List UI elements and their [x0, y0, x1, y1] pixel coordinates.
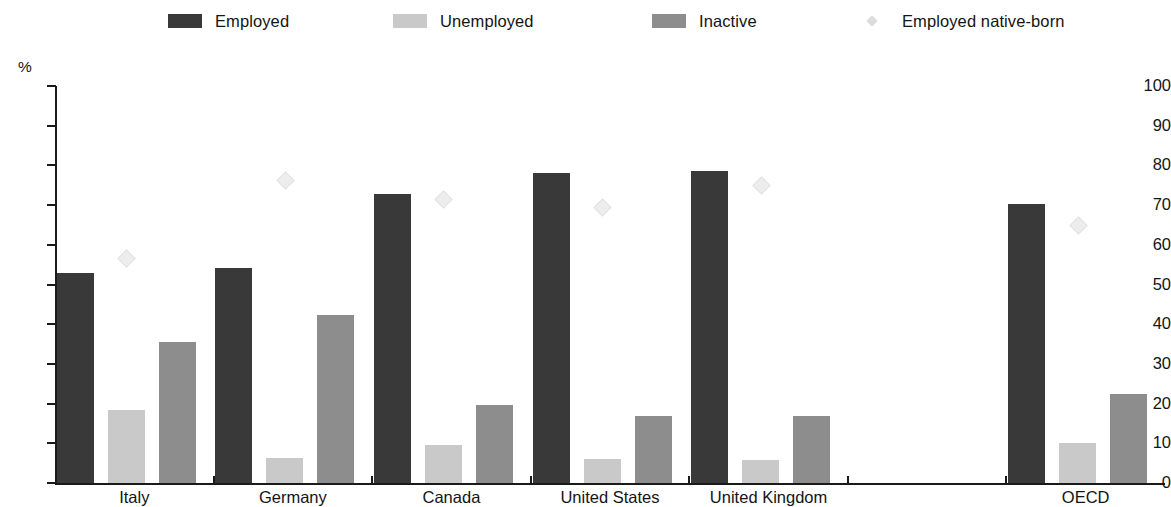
y-axis-tick	[47, 442, 56, 444]
legend-swatch-inactive	[652, 14, 686, 28]
legend-label-employed: Employed	[215, 12, 289, 31]
legend-label-employed-native-born: Employed native-born	[902, 12, 1065, 31]
legend-item-unemployed: Unemployed	[393, 10, 534, 32]
bar-unemployed	[1059, 443, 1096, 483]
bar-employed	[1008, 204, 1045, 483]
chart-legend: Employed Unemployed Inactive Employed na…	[0, 0, 1171, 46]
legend-label-inactive: Inactive	[699, 12, 757, 31]
y-axis-tick-label: 80	[1129, 156, 1171, 173]
bar-employed	[533, 173, 570, 483]
x-axis-category-label: Italy	[55, 488, 214, 507]
bar-unemployed	[584, 459, 621, 483]
y-axis-tick	[47, 85, 56, 87]
native-born-diamond-marker	[593, 198, 611, 216]
bar-unemployed	[742, 460, 779, 483]
y-axis-tick	[47, 323, 56, 325]
native-born-diamond-marker	[1069, 216, 1087, 234]
legend-item-inactive: Inactive	[652, 10, 757, 32]
y-axis-tick	[47, 244, 56, 246]
bar-inactive	[1110, 394, 1147, 483]
bar-employed	[691, 171, 728, 483]
legend-label-unemployed: Unemployed	[440, 12, 534, 31]
native-born-diamond-marker	[276, 172, 294, 190]
y-axis-tick	[47, 363, 56, 365]
bar-inactive	[635, 416, 672, 483]
x-axis-tick	[847, 476, 849, 485]
x-axis-category-label: United Kingdom	[689, 488, 848, 507]
x-axis-category-label: Germany	[214, 488, 373, 507]
legend-swatch-employed	[168, 14, 202, 28]
y-axis-tick-label: 40	[1129, 315, 1171, 332]
y-axis-unit-label: %	[18, 58, 32, 76]
x-axis-tick	[213, 476, 215, 485]
bar-inactive	[159, 342, 196, 483]
native-born-diamond-marker	[118, 250, 136, 268]
y-axis-tick	[47, 403, 56, 405]
diamond-marker-icon	[855, 14, 889, 28]
bar-employed	[57, 273, 94, 483]
bar-unemployed	[425, 445, 462, 484]
bar-inactive	[793, 416, 830, 483]
legend-item-employed: Employed	[168, 10, 289, 32]
x-axis-tick	[688, 476, 690, 485]
y-axis-tick-label: 30	[1129, 355, 1171, 372]
y-axis-tick-label: 50	[1129, 276, 1171, 293]
bar-inactive	[476, 405, 513, 483]
y-axis-tick	[47, 204, 56, 206]
x-axis-tick	[371, 476, 373, 485]
x-axis-category-label: Canada	[372, 488, 531, 507]
bar-employed	[374, 194, 411, 483]
x-axis-tick	[1005, 476, 1007, 485]
y-axis-tick-label: 100	[1129, 77, 1171, 94]
y-axis-tick-label: 90	[1129, 117, 1171, 134]
y-axis-tick	[47, 482, 56, 484]
legend-item-employed-native-born: Employed native-born	[855, 10, 1065, 32]
legend-swatch-unemployed	[393, 14, 427, 28]
y-axis-tick	[47, 164, 56, 166]
native-born-diamond-marker	[752, 176, 770, 194]
y-axis-tick	[47, 125, 56, 127]
native-born-diamond-marker	[435, 190, 453, 208]
x-axis-tick	[530, 476, 532, 485]
bar-unemployed	[266, 458, 303, 483]
x-axis-category-label: OECD	[1006, 488, 1165, 507]
y-axis-tick	[47, 284, 56, 286]
x-axis-category-label: United States	[531, 488, 690, 507]
y-axis-tick-label: 70	[1129, 196, 1171, 213]
bar-inactive	[317, 315, 354, 483]
x-axis-line	[55, 483, 1165, 485]
chart-plot-area: % 1009080706050403020100 ItalyGermanyCan…	[0, 46, 1171, 504]
y-axis-tick-label: 60	[1129, 236, 1171, 253]
bar-employed	[215, 268, 252, 483]
bar-unemployed	[108, 410, 145, 483]
